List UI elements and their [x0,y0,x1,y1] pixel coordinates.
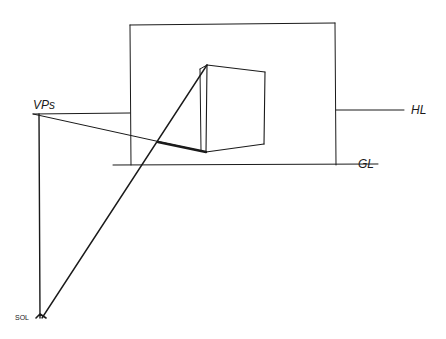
box [200,65,265,152]
measuring-vertical [39,114,40,318]
base-edge [158,142,206,152]
ground-line [113,164,378,165]
gl-label: GL [358,157,374,171]
sol-label: SOL [15,314,29,321]
hl-label: HL [411,103,426,117]
horizon-line [33,110,404,114]
sight-line [42,65,207,318]
vps-label: VPs [33,98,55,112]
perspective-diagram: VPs HL GL SOL [0,0,446,339]
